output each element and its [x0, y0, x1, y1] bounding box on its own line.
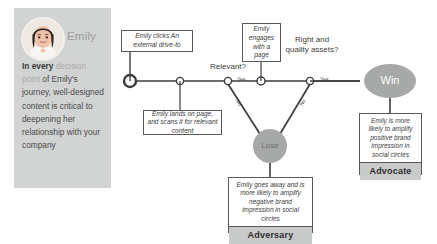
terminal-win-label: Win — [370, 74, 410, 86]
outcome-advocate-tag: Advocate — [360, 162, 421, 180]
persona-description: In every decision point of Emily's journ… — [22, 60, 106, 152]
decision-relevant-label: Relevant? — [194, 62, 262, 72]
persona-description-rest: of Emily's journey, well-designed conten… — [22, 74, 104, 150]
persona-description-lead: In every — [22, 61, 56, 71]
note-engage-text: Emily engages with a page — [246, 25, 277, 59]
outcome-adversary-tag: Adversary — [229, 226, 312, 244]
note-landing: Emily lands on page, and scans it for re… — [143, 110, 222, 135]
persona-panel: Emily In every decision point of Emily's… — [14, 8, 111, 188]
screenshot-canvas: Emily In every decision point of Emily's… — [0, 0, 437, 244]
note-entry: Emily clicks An external drive-to — [121, 30, 193, 52]
persona-name: Emily — [67, 30, 96, 42]
note-landing-text: Emily lands on page, and scans it for re… — [147, 110, 218, 136]
outcome-advocate: Emily is more likely to amplify positive… — [359, 113, 422, 175]
journey-flow-diagram: Emily clicks An external drive-to Emily … — [118, 0, 437, 244]
terminal-lose-label: Lose — [250, 141, 290, 150]
outcome-adversary: Emily goes away and is more likely to am… — [228, 177, 313, 233]
decision-quality-label: Right and quality assets? — [284, 35, 340, 55]
note-entry-text: Emily clicks An external drive-to — [125, 32, 189, 49]
edge-label-yes-relevant: Yes — [237, 76, 246, 82]
outcome-advocate-text: Emily is more likely to amplify positive… — [360, 114, 421, 162]
note-engage: Emily engages with a page — [242, 23, 281, 62]
persona-header: Emily — [14, 14, 111, 60]
outcome-adversary-text: Emily goes away and is more likely to am… — [229, 178, 312, 226]
woman-avatar-icon — [21, 17, 65, 61]
edge-label-yes-quality: Yes — [320, 76, 329, 82]
